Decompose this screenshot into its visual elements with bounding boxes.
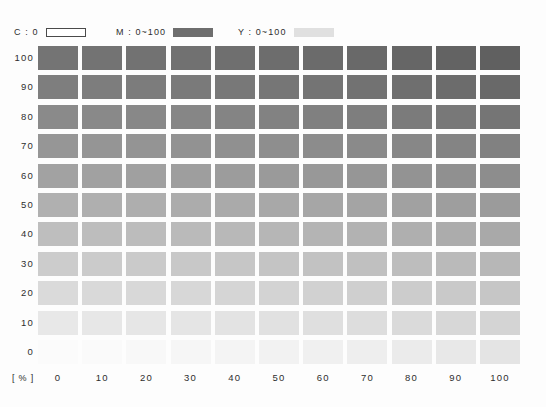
patch-grid (38, 46, 524, 364)
patch-m70-y80 (392, 134, 432, 158)
patch-m100-y70 (347, 46, 387, 70)
patch-m90-y70 (347, 75, 387, 99)
y-tick-0: 0 (0, 340, 34, 364)
patch-m100-y30 (171, 46, 211, 70)
patch-m0-y70 (347, 340, 387, 364)
patch-row (38, 252, 524, 276)
patch-row (38, 222, 524, 246)
x-tick-60: 60 (303, 371, 343, 385)
y-tick-90: 90 (0, 75, 34, 99)
patch-m70-y20 (126, 134, 166, 158)
patch-m0-y50 (259, 340, 299, 364)
patch-m20-y40 (215, 281, 255, 305)
patch-m50-y60 (303, 193, 343, 217)
patch-m20-y20 (126, 281, 166, 305)
patch-m30-y100 (480, 252, 520, 276)
patch-m90-y50 (259, 75, 299, 99)
patch-m30-y30 (171, 252, 211, 276)
x-tick-20: 20 (126, 371, 166, 385)
patch-m80-y40 (215, 105, 255, 129)
patch-row (38, 105, 524, 129)
patch-m20-y0 (38, 281, 78, 305)
patch-m10-y90 (436, 311, 476, 335)
patch-row (38, 46, 524, 70)
patch-m0-y80 (392, 340, 432, 364)
patch-m80-y30 (171, 105, 211, 129)
patch-m40-y10 (82, 222, 122, 246)
patch-row (38, 311, 524, 335)
patch-m60-y30 (171, 164, 211, 188)
patch-m0-y40 (215, 340, 255, 364)
patch-m0-y30 (171, 340, 211, 364)
patch-m20-y30 (171, 281, 211, 305)
legend-swatch-cyan (46, 28, 86, 37)
patch-m50-y70 (347, 193, 387, 217)
patch-m40-y60 (303, 222, 343, 246)
patch-m20-y90 (436, 281, 476, 305)
patch-m100-y40 (215, 46, 255, 70)
y-tick-70: 70 (0, 134, 34, 158)
patch-m40-y20 (126, 222, 166, 246)
x-tick-90: 90 (436, 371, 476, 385)
patch-m30-y80 (392, 252, 432, 276)
legend-entry-magenta: M : 0~100 (116, 24, 213, 40)
patch-m10-y100 (480, 311, 520, 335)
x-tick-100: 100 (480, 371, 520, 385)
legend-label-cyan: C : 0 (14, 24, 39, 40)
patch-m70-y60 (303, 134, 343, 158)
patch-m0-y60 (303, 340, 343, 364)
y-axis: 1009080706050403020100 (0, 46, 34, 364)
patch-m50-y80 (392, 193, 432, 217)
patch-m10-y0 (38, 311, 78, 335)
patch-m60-y100 (480, 164, 520, 188)
patch-m0-y100 (480, 340, 520, 364)
patch-m90-y30 (171, 75, 211, 99)
y-tick-80: 80 (0, 105, 34, 129)
patch-m70-y10 (82, 134, 122, 158)
patch-m80-y10 (82, 105, 122, 129)
patch-m90-y10 (82, 75, 122, 99)
patch-m30-y90 (436, 252, 476, 276)
patch-m90-y80 (392, 75, 432, 99)
patch-m100-y100 (480, 46, 520, 70)
patch-m80-y80 (392, 105, 432, 129)
patch-m80-y20 (126, 105, 166, 129)
patch-m90-y100 (480, 75, 520, 99)
patch-m10-y70 (347, 311, 387, 335)
patch-m10-y20 (126, 311, 166, 335)
patch-m90-y90 (436, 75, 476, 99)
patch-m80-y70 (347, 105, 387, 129)
patch-m10-y40 (215, 311, 255, 335)
patch-m10-y10 (82, 311, 122, 335)
patch-m70-y70 (347, 134, 387, 158)
patch-m0-y90 (436, 340, 476, 364)
patch-m100-y50 (259, 46, 299, 70)
patch-m60-y50 (259, 164, 299, 188)
y-tick-10: 10 (0, 311, 34, 335)
patch-m30-y40 (215, 252, 255, 276)
patch-m10-y30 (171, 311, 211, 335)
patch-row (38, 134, 524, 158)
patch-m60-y80 (392, 164, 432, 188)
y-tick-40: 40 (0, 222, 34, 246)
legend-swatch-magenta (173, 28, 213, 37)
color-calibration-chart: C : 0 M : 0~100 Y : 0~100 10090807060504… (0, 0, 546, 407)
patch-m60-y20 (126, 164, 166, 188)
patch-m60-y90 (436, 164, 476, 188)
patch-m30-y20 (126, 252, 166, 276)
patch-m0-y0 (38, 340, 78, 364)
patch-m10-y50 (259, 311, 299, 335)
patch-m90-y0 (38, 75, 78, 99)
patch-m100-y10 (82, 46, 122, 70)
patch-m80-y0 (38, 105, 78, 129)
patch-m40-y0 (38, 222, 78, 246)
patch-m0-y10 (82, 340, 122, 364)
patch-m0-y20 (126, 340, 166, 364)
patch-m60-y0 (38, 164, 78, 188)
patch-m40-y70 (347, 222, 387, 246)
legend-entry-yellow: Y : 0~100 (238, 24, 334, 40)
patch-row (38, 281, 524, 305)
patch-m50-y30 (171, 193, 211, 217)
patch-m30-y50 (259, 252, 299, 276)
patch-m30-y0 (38, 252, 78, 276)
